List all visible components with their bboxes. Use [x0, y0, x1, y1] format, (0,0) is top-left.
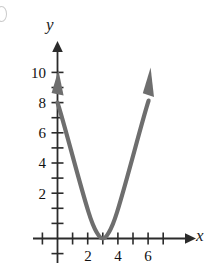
parabola-curve [52, 68, 154, 239]
x-tick-label-6: 6 [138, 249, 158, 264]
y-tick-label-2: 2 [22, 187, 46, 202]
x-tick-label-2: 2 [78, 249, 98, 264]
x-tick-label-4: 4 [108, 249, 128, 264]
y-tick-label-4: 4 [22, 156, 46, 171]
parabola-figure: y x 10 8 6 4 2 2 4 6 [0, 0, 220, 277]
y-tick-label-10: 10 [22, 66, 46, 81]
y-axis-label: y [46, 16, 54, 33]
y-tick-label-6: 6 [22, 126, 46, 141]
y-tick-label-8: 8 [22, 96, 46, 111]
x-axis-label: x [196, 227, 204, 244]
